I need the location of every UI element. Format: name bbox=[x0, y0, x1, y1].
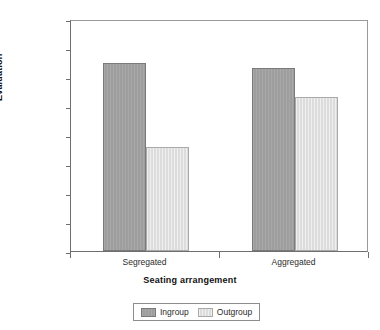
x-axis-title: Seating arrangement bbox=[0, 275, 380, 285]
x-axis-category-label: Segregated bbox=[123, 257, 167, 267]
legend-swatch-icon bbox=[198, 308, 213, 317]
bar-chart: Evaluation 65.755.55.2554.754.54.254 Seg… bbox=[0, 0, 380, 330]
legend-label: Ingroup bbox=[160, 307, 189, 317]
x-axis-tick bbox=[368, 252, 369, 258]
legend-label: Outgroup bbox=[217, 307, 252, 317]
y-axis-tick bbox=[66, 137, 71, 138]
y-axis-tick bbox=[66, 21, 71, 22]
y-axis-tick bbox=[66, 108, 71, 109]
chart-legend: IngroupOutgroup bbox=[133, 303, 260, 321]
legend-swatch-icon bbox=[141, 308, 156, 317]
y-axis-tick bbox=[66, 50, 71, 51]
bar-aggregated-ingroup bbox=[252, 68, 295, 251]
legend-item-ingroup[interactable]: Ingroup bbox=[141, 307, 189, 317]
bar-segregated-ingroup bbox=[103, 63, 146, 251]
bar-aggregated-outgroup bbox=[295, 97, 338, 251]
y-axis-tick bbox=[66, 224, 71, 225]
x-axis-tick bbox=[70, 252, 71, 258]
x-axis-tick bbox=[219, 252, 220, 258]
bar-segregated-outgroup bbox=[146, 147, 189, 251]
legend-item-outgroup[interactable]: Outgroup bbox=[198, 307, 252, 317]
x-axis-category-label: Aggregated bbox=[272, 257, 316, 267]
y-axis-tick bbox=[66, 195, 71, 196]
y-axis-tick bbox=[66, 166, 71, 167]
plot-area bbox=[70, 20, 368, 252]
y-axis-tick bbox=[66, 79, 71, 80]
